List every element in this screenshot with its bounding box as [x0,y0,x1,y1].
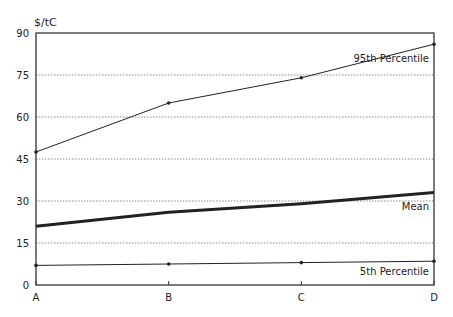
x-tick-label: C [298,292,305,303]
series-lines: 95th PercentileMean5th Percentile [34,42,436,277]
data-point [34,264,38,268]
y-tick-label: 90 [16,28,29,39]
y-tick-label: 15 [16,238,29,249]
data-point [167,262,171,266]
data-point [432,259,436,263]
x-axis-ticks: ABCD [33,281,439,303]
y-tick-label: 60 [16,112,29,123]
data-point [432,42,436,46]
series-line [36,193,434,227]
y-axis-unit-label: $/tC [34,16,57,29]
x-tick-label: B [165,292,172,303]
y-tick-label: 0 [23,280,29,291]
data-point [167,101,171,105]
data-point [300,76,304,80]
gridlines [36,75,434,243]
y-axis-ticks: 0153045607590 [16,28,29,291]
series-label: Mean [402,201,429,212]
series-label: 95th Percentile [354,53,430,64]
line-chart: 0153045607590 ABCD $/tC 95th PercentileM… [0,0,453,317]
y-tick-label: 30 [16,196,29,207]
x-tick-label: A [33,292,40,303]
data-point [300,261,304,265]
y-tick-label: 45 [16,154,29,165]
y-tick-label: 75 [16,70,29,81]
series-line [36,261,434,265]
x-tick-label: D [430,292,438,303]
series-label: 5th Percentile [360,266,429,277]
data-point [34,150,38,154]
